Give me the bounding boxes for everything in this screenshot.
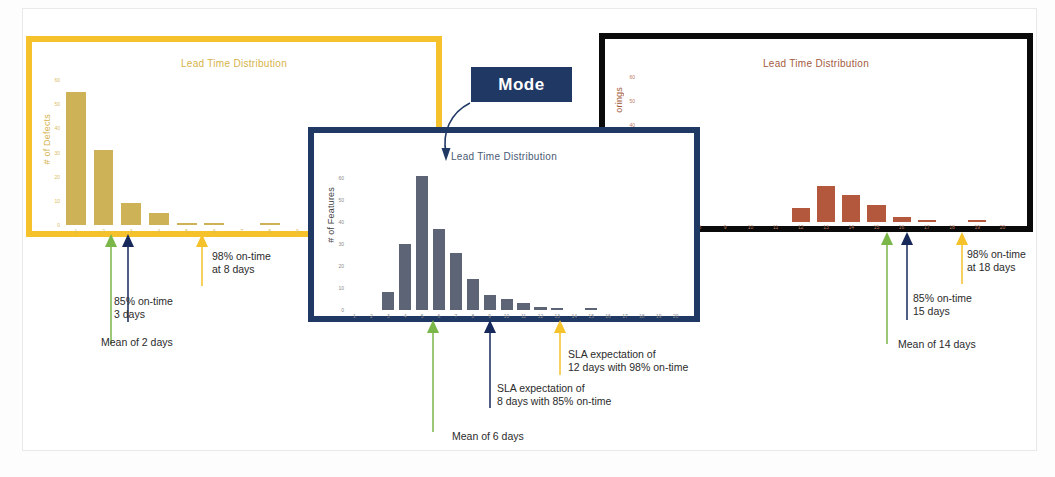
bar xyxy=(517,303,529,310)
y-axis-ticks-defects: 0102030405060 xyxy=(38,80,60,225)
annotation-arrow-sla98-defects xyxy=(195,234,209,286)
bar-cell xyxy=(62,80,90,225)
x-tick-label: 19 xyxy=(965,224,990,230)
bar xyxy=(399,244,411,310)
bar-cell xyxy=(839,77,864,222)
x-tick-label: 16 xyxy=(600,313,617,319)
bar xyxy=(433,229,445,310)
bar xyxy=(416,176,428,310)
y-tick-label: 60 xyxy=(54,78,60,83)
x-tick-label: 18 xyxy=(939,224,964,230)
y-tick-label: 60 xyxy=(629,75,635,80)
x-tick-label: 20 xyxy=(990,224,1015,230)
bar-cell xyxy=(481,167,498,310)
annotation-arrow-mean-defects xyxy=(104,234,118,344)
bar-cell xyxy=(617,167,634,310)
bar-cell xyxy=(889,77,914,222)
annotation-text-sla98-defects: 98% on-time at 8 days xyxy=(212,250,271,276)
x-tick-label: 3 xyxy=(380,313,397,319)
x-tick-label: 14 xyxy=(839,224,864,230)
x-tick-label: 19 xyxy=(650,313,667,319)
x-tick-label: 7 xyxy=(228,228,256,234)
annotation-text-sla85-features: SLA expectation of 8 days with 85% on-ti… xyxy=(497,382,611,408)
bar-cell xyxy=(397,167,414,310)
bar-cell xyxy=(228,80,256,225)
bar xyxy=(260,223,280,225)
bar-cell xyxy=(650,167,667,310)
x-tick-label: 8 xyxy=(256,228,284,234)
y-tick-label: 20 xyxy=(54,174,60,179)
bar xyxy=(94,150,114,225)
bar xyxy=(792,208,810,223)
y-tick-label: 50 xyxy=(629,99,635,104)
bar-cell xyxy=(346,167,363,310)
bar-cell xyxy=(380,167,397,310)
x-tick-label: 4 xyxy=(397,313,414,319)
bar-cell xyxy=(633,167,650,310)
bar-cell xyxy=(414,167,431,310)
x-tick-label: 17 xyxy=(914,224,939,230)
x-tick-label: 5 xyxy=(414,313,431,319)
x-tick-label: 13 xyxy=(549,313,566,319)
bar xyxy=(484,295,496,310)
annotation-text-sla85-defects: 85% on-time 3 days xyxy=(114,295,173,321)
bar-cell xyxy=(713,77,738,222)
bar-cell xyxy=(763,77,788,222)
bar-cell xyxy=(498,167,515,310)
bar-cell xyxy=(549,167,566,310)
y-tick-label: 50 xyxy=(54,102,60,107)
x-tick-label: 12 xyxy=(788,224,813,230)
x-tick-label: 9 xyxy=(481,313,498,319)
bar xyxy=(893,217,911,222)
bar-cell xyxy=(515,167,532,310)
slide-canvas: Lead Time Distribution # of Defects 0102… xyxy=(0,0,1055,477)
y-tick-label: 20 xyxy=(338,264,344,269)
y-tick-label: 40 xyxy=(54,126,60,131)
chart-title: Lead Time Distribution xyxy=(32,58,436,69)
bar xyxy=(918,220,936,222)
bar-cell xyxy=(965,77,990,222)
bar xyxy=(450,253,462,310)
bar-cell xyxy=(117,80,145,225)
bar-cell xyxy=(667,167,684,310)
bar xyxy=(817,186,835,222)
bar-cell xyxy=(939,77,964,222)
bar-cell xyxy=(447,167,464,310)
panel-features[interactable]: Lead Time Distribution # of Features 010… xyxy=(308,127,700,322)
x-tick-label: 14 xyxy=(566,313,583,319)
bar xyxy=(121,203,141,225)
annotation-text-sla98-scorings: 98% on-time at 18 days xyxy=(967,248,1026,274)
x-tick-label: 13 xyxy=(813,224,838,230)
bar-cell xyxy=(256,80,284,225)
plot-area-features xyxy=(346,167,684,310)
y-tick-label: 50 xyxy=(338,198,344,203)
x-tick-label: 17 xyxy=(617,313,634,319)
bar xyxy=(585,308,597,310)
y-tick-label: 30 xyxy=(338,242,344,247)
y-tick-label: 10 xyxy=(54,198,60,203)
annotation-text-mean-defects: Mean of 2 days xyxy=(101,336,173,349)
bar-cell xyxy=(566,167,583,310)
bar-cell xyxy=(90,80,118,225)
chart-title: Lead Time Distribution xyxy=(605,58,1027,69)
bar-cell xyxy=(145,80,173,225)
x-tick-label: 6 xyxy=(431,313,448,319)
x-tick-label: 15 xyxy=(583,313,600,319)
bar-cell xyxy=(200,80,228,225)
x-tick-label: 8 xyxy=(464,313,481,319)
bar-cell xyxy=(363,167,380,310)
x-tick-label: 9 xyxy=(713,224,738,230)
bar-cell xyxy=(583,167,600,310)
bar-cell xyxy=(864,77,889,222)
bar xyxy=(501,299,513,310)
y-tick-label: 40 xyxy=(338,220,344,225)
y-tick-label: 10 xyxy=(338,286,344,291)
bar xyxy=(867,205,885,222)
x-tick-label: 15 xyxy=(864,224,889,230)
x-tick-label: 10 xyxy=(738,224,763,230)
bar xyxy=(968,220,986,222)
bar-cell xyxy=(990,77,1015,222)
y-tick-label: 60 xyxy=(338,176,344,181)
bar xyxy=(842,195,860,222)
bar-cell xyxy=(464,167,481,310)
